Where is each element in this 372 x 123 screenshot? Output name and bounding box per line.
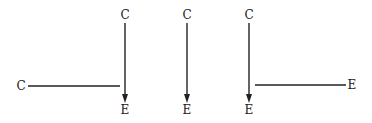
causal-diagram: C C E C E C E E <box>0 0 372 123</box>
arrowhead-icon <box>184 94 190 103</box>
node-e-right: E <box>348 78 357 92</box>
panel-left: C C E <box>16 8 129 117</box>
arrowhead-icon <box>246 94 252 103</box>
node-e-bottom: E <box>245 103 254 117</box>
panel-right: C E E <box>244 8 356 117</box>
node-c-top: C <box>120 8 129 22</box>
node-e-bottom: E <box>121 103 130 117</box>
node-e-bottom: E <box>183 103 192 117</box>
arrowhead-icon <box>122 94 128 103</box>
node-c-top: C <box>182 8 191 22</box>
node-c-top: C <box>244 8 253 22</box>
node-c-left: C <box>16 79 25 93</box>
panel-middle: C E <box>182 8 191 117</box>
